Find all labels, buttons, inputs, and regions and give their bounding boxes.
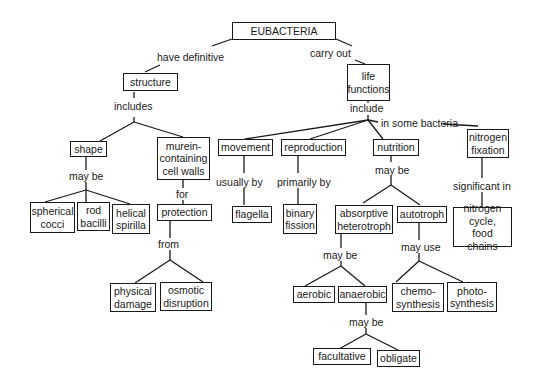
node-rod-bacilli: rod bacilli — [77, 202, 110, 231]
link-usually-by: usually by — [216, 176, 263, 188]
link-may-be-nutrition: may be — [375, 164, 409, 176]
link-includes: includes — [114, 100, 153, 112]
node-anaerobic: anaerobic — [338, 286, 387, 303]
link-may-be-heterotroph: may be — [323, 249, 357, 261]
node-autotroph: autotroph — [397, 206, 447, 223]
node-murein-cell-walls: murein- containing cell walls — [157, 137, 210, 180]
node-obligate: obligate — [377, 350, 420, 367]
node-structure: structure — [123, 73, 178, 91]
node-spherical-cocci: spherical cocci — [30, 202, 75, 233]
link-significant-in: significant in — [453, 180, 511, 192]
node-flagella: flagella — [232, 206, 272, 223]
node-eubacteria: EUBACTERIA — [232, 22, 336, 40]
node-photosynthesis: photo- synthesis — [447, 282, 497, 312]
node-protection: protection — [157, 204, 212, 221]
link-include: include — [350, 102, 383, 114]
link-from: from — [158, 238, 179, 250]
link-in-some-bacteria: in some bacteria — [381, 117, 458, 129]
link-have-definitive: have definitive — [157, 51, 224, 63]
node-nitrogen-cycle: nitrogen cycle, food chains — [453, 207, 512, 247]
node-shape: shape — [70, 141, 107, 157]
node-nitrogen-fixation: nitrogen fixation — [467, 129, 509, 158]
link-carry-out: carry out — [310, 47, 351, 59]
node-osmotic-disruption: osmotic disruption — [160, 282, 212, 311]
node-physical-damage: physical damage — [110, 283, 156, 312]
node-nutrition: nutrition — [373, 139, 419, 156]
node-binary-fission: binary fission — [283, 204, 317, 234]
node-facultative: facultative — [313, 348, 371, 365]
node-aerobic: aerobic — [293, 286, 335, 303]
link-may-be-anaerobic: may be — [349, 316, 383, 328]
node-helical-spirilla: helical spirilla — [112, 204, 150, 234]
link-primarily-by: primarily by — [277, 176, 331, 188]
node-reproduction: reproduction — [281, 139, 346, 156]
node-absorptive-heterotroph: absorptive heterotroph — [335, 205, 393, 234]
node-life-functions: life functions — [347, 64, 390, 101]
connector-lines — [0, 0, 537, 389]
link-for: for — [176, 188, 188, 200]
link-may-be-shape: may be — [69, 170, 103, 182]
link-may-use: may use — [401, 241, 441, 253]
node-movement: movement — [218, 139, 273, 156]
node-chemosynthesis: chemo- synthesis — [392, 283, 444, 312]
